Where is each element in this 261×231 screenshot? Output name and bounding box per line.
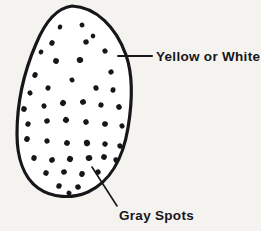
callout-label-shell-color: Yellow or White [156,49,260,64]
egg-diagram: Yellow or White Gray Spots [0,0,261,231]
callout-label-spots: Gray Spots [119,208,194,223]
